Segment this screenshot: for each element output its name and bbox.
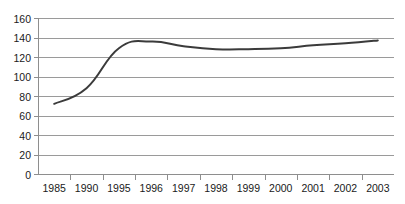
data-series-line [54, 40, 378, 103]
y-tick-label: 40 [19, 130, 31, 142]
y-tick-label: 60 [19, 110, 31, 122]
x-tick-label: 1990 [75, 182, 99, 194]
x-tickmarks-group [71, 175, 363, 180]
y-axis-tick-labels: 020406080100120140160 [13, 13, 31, 181]
x-tick-label: 1985 [43, 182, 67, 194]
x-tick-label: 2002 [334, 182, 358, 194]
chart-plot-area: 020406080100120140160 198519901995199619… [0, 0, 405, 204]
x-tick-label: 1997 [172, 182, 196, 194]
y-tick-label: 80 [19, 91, 31, 103]
x-tick-label: 2000 [269, 182, 293, 194]
y-tick-label: 20 [19, 149, 31, 161]
y-tick-label: 120 [13, 52, 31, 64]
x-tick-label: 2001 [301, 182, 325, 194]
y-tick-label: 140 [13, 32, 31, 44]
y-tick-label: 160 [13, 13, 31, 25]
y-tick-label: 100 [13, 71, 31, 83]
x-tick-label: 1996 [140, 182, 164, 194]
gridlines-group [38, 19, 394, 156]
x-tick-label: 1995 [107, 182, 131, 194]
x-tick-label: 1999 [237, 182, 261, 194]
y-tickmarks-group [34, 19, 38, 175]
x-tick-label: 1998 [204, 182, 228, 194]
y-tick-label: 0 [25, 169, 31, 181]
x-tick-label: 2003 [366, 182, 390, 194]
line-chart-figure: 020406080100120140160 198519901995199619… [0, 0, 405, 204]
x-axis-tick-labels: 1985199019951996199719981999200020012002… [43, 182, 390, 194]
